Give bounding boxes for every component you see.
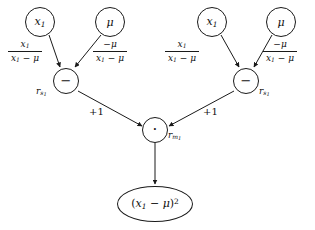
fraction-denominator: x1 − μ: [93, 51, 127, 64]
node-label-r-s1-right: rs1: [259, 86, 270, 97]
edge-subright-to-mult: [169, 91, 234, 126]
node-result: (x1 − μ)2: [117, 186, 193, 222]
node-mu-right-label: μ: [277, 16, 284, 29]
node-x1-right: x1: [197, 7, 227, 37]
edge-label-plus-one-right: +1: [203, 106, 218, 117]
fraction-denominator: x1 − μ: [8, 51, 42, 64]
node-label-r-s1-left: rs1: [36, 86, 47, 97]
node-x1-left-label: x1: [35, 15, 46, 29]
fraction-numerator: x1: [8, 39, 42, 51]
fraction-numerator: −μ: [263, 39, 297, 51]
node-mu-left: μ: [95, 7, 125, 37]
edge-subleft-to-mult: [78, 91, 142, 126]
edge-label-fraction-left-x1: x1 x1 − μ: [8, 39, 42, 63]
edge-x1right-to-subright: [221, 35, 239, 67]
node-subtract-right: −: [233, 68, 259, 94]
edge-label-fraction-right-x1: x1 x1 − μ: [165, 39, 199, 63]
edge-label-plus-one-left: +1: [89, 106, 104, 117]
computational-graph-diagram: x1 μ x1 μ − rs1 − rs1 · rm1 (x1 − μ)2 x1…: [0, 0, 315, 230]
node-multiply: ·: [142, 117, 168, 143]
fraction-denominator: x1 − μ: [165, 51, 199, 64]
node-result-label: (x1 − μ)2: [131, 197, 179, 211]
node-mu-right: μ: [266, 7, 296, 37]
edge-label-fraction-right-mu: −μ x1 − μ: [263, 39, 297, 63]
fraction-numerator: −μ: [93, 39, 127, 51]
edge-x1left-to-subleft: [49, 35, 60, 67]
node-label-r-m1: rm1: [168, 130, 181, 141]
node-mu-left-label: μ: [106, 16, 113, 29]
node-x1-left: x1: [25, 7, 55, 37]
edge-label-fraction-left-mu: −μ x1 − μ: [93, 39, 127, 63]
fraction-denominator: x1 − μ: [263, 51, 297, 64]
node-x1-right-label: x1: [207, 15, 218, 29]
fraction-numerator: x1: [165, 39, 199, 51]
node-subtract-left: −: [53, 68, 79, 94]
